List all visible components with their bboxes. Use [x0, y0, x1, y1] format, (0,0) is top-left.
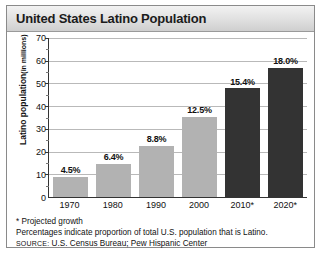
x-axis: 1970 1980 1990 2000 2010* 2020*	[14, 198, 307, 213]
bar-slot-2020: 18.0%	[268, 38, 302, 197]
bar-label-2010: 15.4%	[230, 77, 255, 87]
footnote-projected: * Projected growth	[16, 216, 307, 227]
x-axis-tick-labels: 1970 1980 1990 2000 2010* 2020*	[48, 198, 307, 213]
footnote-percentages: Percentages indicate proportion of total…	[16, 227, 307, 238]
bar-series: 4.5% 6.4% 8.8% 12.5%	[49, 38, 307, 197]
y-axis-label-main: Latino population	[18, 74, 28, 145]
chart-title: United States Latino Population	[16, 11, 206, 26]
chart-footnotes: * Projected growth Percentages indicate …	[14, 216, 307, 249]
x-tick-2010: 2010*	[225, 200, 259, 210]
bar-label-2000: 12.5%	[187, 105, 212, 115]
chart-plot-container: Latino population(in millions) 70 60 50 …	[14, 38, 307, 198]
chart-body: Latino population(in millions) 70 60 50 …	[7, 32, 314, 253]
chart-figure: United States Latino Population Latino p…	[6, 5, 315, 248]
x-tick-2000: 2000	[182, 200, 216, 210]
bar-slot-2000: 12.5%	[182, 38, 216, 197]
x-tick-1970: 1970	[52, 200, 86, 210]
y-tick-0: 0	[41, 193, 46, 203]
bar-slot-1990: 8.8%	[139, 38, 173, 197]
bar-label-1980: 6.4%	[104, 152, 124, 162]
bar-2010[interactable]	[225, 88, 259, 197]
bar-1970[interactable]	[53, 177, 87, 198]
bar-2020[interactable]	[268, 68, 302, 197]
bar-label-1970: 4.5%	[61, 165, 81, 175]
bar-1980[interactable]	[96, 164, 130, 197]
x-tick-2020: 2020*	[268, 200, 302, 210]
footnote-source: SOURCE: U.S. Census Bureau; Pew Hispanic…	[16, 238, 307, 249]
y-axis-label-unit: (in millions)	[20, 34, 27, 73]
x-tick-1990: 1990	[139, 200, 173, 210]
bar-label-2020: 18.0%	[273, 56, 298, 66]
bar-slot-1980: 6.4%	[96, 38, 130, 197]
bar-1990[interactable]	[139, 146, 173, 197]
bar-slot-2010: 15.4%	[225, 38, 259, 197]
source-word: SOURCE:	[16, 240, 49, 247]
y-axis-label-container: Latino population(in millions)	[14, 38, 28, 198]
plot-area: 4.5% 6.4% 8.8% 12.5%	[48, 38, 307, 198]
bar-2000[interactable]	[182, 117, 216, 197]
x-tick-1980: 1980	[96, 200, 130, 210]
chart-header: United States Latino Population	[7, 6, 314, 32]
y-axis-label: Latino population(in millions)	[18, 41, 28, 145]
bar-label-1990: 8.8%	[147, 134, 167, 144]
bar-slot-1970: 4.5%	[53, 38, 87, 197]
source-text: U.S. Census Bureau; Pew Hispanic Center	[52, 239, 208, 248]
